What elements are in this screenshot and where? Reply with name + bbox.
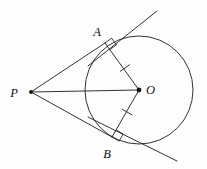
- geometry-figure: P O A B: [0, 0, 207, 169]
- label-o: O: [146, 83, 155, 97]
- tangent-line-lower: [88, 117, 177, 161]
- geometry-canvas: P O A B: [0, 0, 207, 169]
- label-b: B: [103, 147, 111, 161]
- external-point-dot: [29, 90, 33, 94]
- label-a: A: [92, 25, 101, 39]
- label-p: P: [9, 86, 18, 100]
- segment-pb: [31, 92, 112, 137]
- radius-oa: [105, 43, 139, 90]
- center-point-dot: [137, 88, 142, 93]
- segment-pa: [31, 43, 105, 92]
